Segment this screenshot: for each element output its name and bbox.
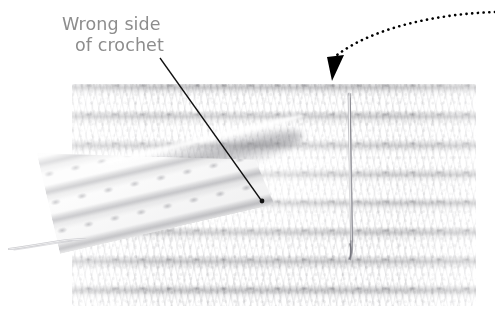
annotation-label-line2: of crochet bbox=[62, 35, 272, 56]
annotation-label-line1: Wrong side bbox=[62, 14, 161, 34]
loose-yarn-tail bbox=[8, 238, 86, 252]
annotation-label: Wrong sideof crochet bbox=[62, 14, 272, 56]
crochet-hook bbox=[345, 92, 357, 262]
screenshot-root: Wrong sideof crochet bbox=[0, 0, 495, 329]
